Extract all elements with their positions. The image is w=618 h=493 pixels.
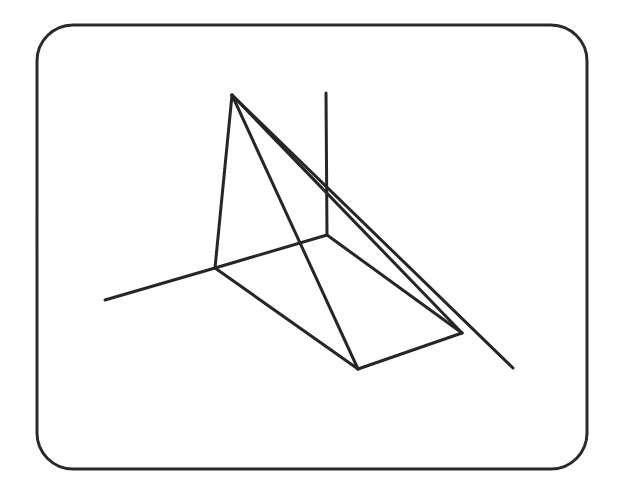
vertical-axis-line	[326, 93, 327, 235]
axis-left-line	[105, 268, 215, 300]
rounded-frame	[37, 25, 587, 469]
wireframe-edges	[105, 93, 513, 369]
B-to-D-line	[327, 235, 462, 333]
C-to-D-line	[358, 333, 462, 369]
apex-to-A-line	[215, 95, 232, 268]
apex-to-C-line	[232, 95, 358, 369]
apex-long-diagonal-line	[232, 95, 513, 368]
apex-to-D-line	[232, 95, 462, 333]
wireframe-diagram	[0, 0, 618, 493]
A-to-C-line	[215, 268, 358, 369]
